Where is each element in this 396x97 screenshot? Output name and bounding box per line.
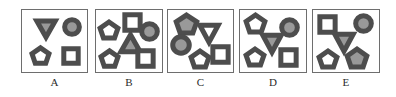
panel-label-d: D (239, 76, 307, 89)
triangle-down-gray-icon (36, 20, 56, 38)
pentagon-white-icon (318, 50, 338, 69)
circle-gray-icon (64, 19, 80, 35)
panel-label-b: B (95, 76, 163, 89)
triangle-down-white-icon (199, 24, 219, 43)
pentagon-white-top-icon (245, 14, 266, 34)
pentagon-white-top-icon (99, 21, 119, 40)
pentagon-gray-icon (346, 48, 368, 69)
panel-label-a: A (21, 76, 88, 89)
pentagon-gray-icon (175, 14, 198, 35)
pentagon-white-icon (190, 50, 210, 69)
circle-gray-icon (172, 36, 190, 54)
pentagon-white-bottom-icon (100, 50, 119, 68)
circle-gray-icon (355, 15, 372, 32)
pentagon-white-icon (31, 47, 50, 65)
panel-label-e: E (312, 76, 380, 89)
shape-panels-figure: ABCDE (0, 0, 396, 97)
square-white-icon (212, 46, 229, 63)
square-white-icon (63, 48, 79, 64)
square-white-icon (319, 16, 336, 33)
pentagon-white-bottom-icon (245, 48, 265, 67)
square-white-icon (280, 49, 297, 66)
circle-gray-icon (141, 23, 158, 40)
panel-label-c: C (167, 76, 234, 89)
square-white-top-icon (124, 14, 141, 31)
square-white-bottom-icon (137, 50, 154, 67)
